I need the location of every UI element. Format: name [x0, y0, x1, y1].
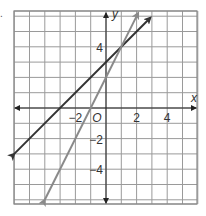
coordinate-plane: xyO−2244−2−4: [0, 0, 206, 216]
origin-label: O: [92, 111, 101, 125]
line-series-1: [14, 18, 150, 154]
y-axis-label: y: [111, 7, 119, 21]
y-tick-label: 4: [96, 41, 103, 55]
x-tick-label: 2: [133, 111, 140, 125]
x-tick-label: −2: [69, 111, 83, 125]
bullet-marker: .: [0, 8, 3, 19]
y-tick-label: −4: [89, 163, 103, 177]
x-axis-label: x: [190, 91, 198, 105]
y-tick-label: −2: [89, 133, 103, 147]
x-tick-label: 4: [164, 111, 171, 125]
